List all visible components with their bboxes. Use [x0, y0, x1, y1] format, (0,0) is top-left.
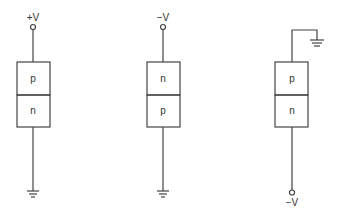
- device-right: [275, 30, 324, 195]
- region-label: n: [160, 73, 166, 84]
- supply-label-middle: −V: [157, 12, 170, 23]
- supply-label-left: +V: [27, 12, 40, 23]
- ground-icon: [27, 191, 39, 197]
- terminal-icon: [161, 25, 166, 30]
- region-label: n: [30, 105, 36, 116]
- diode-bias-diagram: +V p n −V n p p n −V: [0, 0, 339, 215]
- region-label: p: [160, 105, 166, 116]
- region-label: p: [289, 73, 295, 84]
- ground-icon: [310, 40, 324, 46]
- wire: [292, 30, 317, 62]
- terminal-icon: [290, 190, 295, 195]
- region-label: p: [30, 73, 36, 84]
- supply-label-right: −V: [286, 197, 299, 208]
- ground-icon: [157, 191, 169, 197]
- region-label: n: [289, 105, 295, 116]
- terminal-icon: [31, 25, 36, 30]
